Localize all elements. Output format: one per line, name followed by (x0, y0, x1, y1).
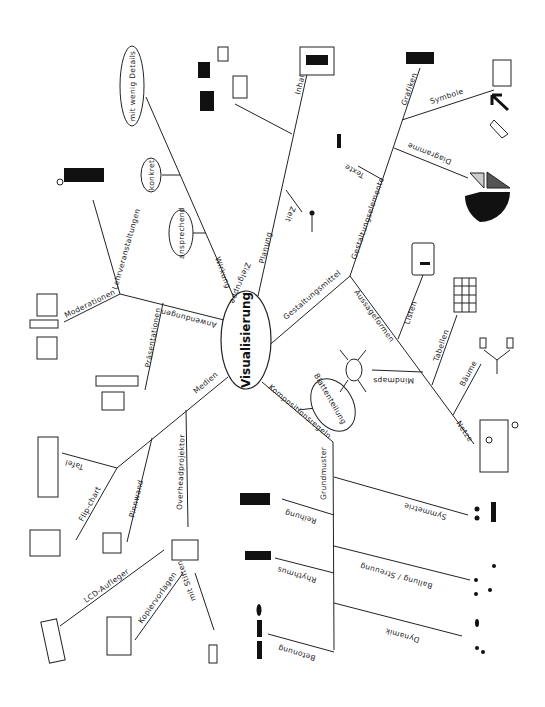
label-zeit: Zeit (283, 205, 297, 223)
mind-map: Visualisierung Wirkung Planung Zielgrupp… (0, 0, 545, 707)
graphic-figure-icon (406, 52, 434, 64)
label-betonung: Betonung (277, 643, 317, 662)
flipchart-icon (30, 530, 60, 556)
blackboard-icon (38, 437, 58, 497)
time-marker-icon (310, 211, 315, 233)
label-moderationen: Moderationen (63, 287, 117, 319)
audience-people-icon (198, 47, 247, 111)
cloud-konkret: konkret (141, 158, 161, 192)
label-medien: Medien (192, 370, 220, 396)
lecturer-figure-icon (57, 168, 104, 185)
label-tabellen: Tabellen (431, 328, 451, 363)
network-icon (480, 420, 518, 472)
label-planung: Planung (257, 231, 274, 265)
label-grafiken: Grafiken (399, 72, 419, 107)
mindmap-icon (340, 350, 366, 392)
label-gestaltungselemente: Gestaltungselemente (349, 176, 386, 261)
list-card-icon (412, 243, 434, 275)
svg-text:mit wenig Details: mit wenig Details (128, 51, 137, 122)
svg-text:konkret: konkret (147, 160, 156, 190)
label-pinnwand: Pinnwand (127, 479, 145, 519)
pie-chart-icon (465, 172, 510, 222)
label-dynamik: Dynamik (384, 626, 421, 645)
label-grundmuster: Grundmuster (319, 446, 328, 500)
pens-icon (209, 645, 217, 663)
pinboard-icon (103, 533, 121, 553)
label-symmetrie: Symmetrie (403, 501, 448, 522)
overhead-projector-icon (172, 540, 198, 560)
label-flipchart: Flip-chart (77, 485, 103, 523)
label-symbole: Symbole (429, 87, 465, 106)
label-lcd: LCD-Aufleger (82, 567, 131, 605)
svg-text:ansprechend: ansprechend (177, 207, 186, 259)
label-stiften: mit Stiften (175, 559, 198, 602)
label-texte: Texte (343, 162, 367, 180)
label-lehr: Lehrveranstaltungen (110, 208, 142, 291)
betonung-icon (257, 604, 263, 659)
table-icon (454, 278, 476, 312)
label-gestaltungsmittel: Gestaltungsmittel (282, 268, 343, 321)
tree-icon (480, 338, 513, 374)
label-ballung: Ballung / Streuung (359, 561, 434, 590)
reihung-icon (240, 493, 270, 505)
presenter-icon (96, 376, 138, 410)
ballung-icon (474, 564, 496, 596)
label-overhead: Overheadprojektor (175, 434, 187, 511)
symbols-icon (490, 60, 511, 138)
symmetrie-icon (475, 502, 497, 522)
label-listen: Listen (402, 300, 418, 326)
label-wirkung: Wirkung (213, 256, 233, 290)
content-card-icon (300, 47, 334, 75)
label-mindmaps: Mindmaps (373, 376, 414, 385)
label-kopier: Kopiervorlagen (136, 570, 178, 625)
label-tafel: Tafel (64, 458, 85, 472)
label-reihung: Reihung (284, 508, 318, 526)
label-netze: Netze (454, 419, 474, 443)
label-aussageformen: Aussageformen (352, 288, 396, 344)
label-praesentationen: Präsentationen (143, 307, 162, 368)
cloud-ansprechend: ansprechend (169, 207, 193, 259)
copy-template-icon (107, 617, 131, 655)
moderation-icon (30, 294, 58, 359)
dynamik-icon (475, 619, 485, 654)
text-block-icon (337, 134, 341, 148)
rhythmus-icon (245, 551, 271, 560)
connector-lines (60, 47, 494, 652)
cloud-mit-wenig-details: mit wenig Details (120, 46, 144, 126)
label-anwendungen: Anwendungen (160, 307, 218, 330)
center-label: Visualisierung (239, 292, 253, 388)
label-rhythmus: Rhythmus (276, 565, 317, 585)
